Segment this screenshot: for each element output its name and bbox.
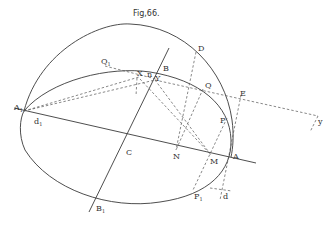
label-n: n xyxy=(147,70,152,79)
line-a1-x xyxy=(24,77,139,111)
label-n-upper: N xyxy=(173,152,180,161)
line-d-tick xyxy=(210,188,232,191)
line-y-yy xyxy=(155,80,318,116)
line-x-down xyxy=(136,78,137,96)
label-a: A xyxy=(232,152,239,161)
label-c: C xyxy=(126,148,132,157)
label-y-lower: y xyxy=(317,117,323,126)
label-d-lower: d xyxy=(223,192,228,201)
label-p1: P1 xyxy=(194,192,203,202)
label-d-upper: D xyxy=(198,44,204,53)
label-a1: A1 xyxy=(13,103,23,113)
geometry-figure: Fig,66. A1 d1 Q1 X n Y B D Q E y P C N M… xyxy=(0,0,334,226)
label-m: M xyxy=(210,157,218,166)
axis-b-b1 xyxy=(89,48,169,212)
line-a1-y xyxy=(24,80,155,111)
label-b: B xyxy=(163,64,169,73)
label-q: Q xyxy=(205,81,212,90)
label-b1: B1 xyxy=(96,204,105,214)
line-y-down xyxy=(310,116,318,132)
label-d1: d1 xyxy=(34,117,42,127)
line-q-n xyxy=(176,89,203,150)
label-x: X xyxy=(137,69,143,78)
label-p: P xyxy=(220,116,226,125)
figure-title: Fig,66. xyxy=(133,9,160,18)
label-q1: Q1 xyxy=(101,57,111,67)
label-y-upper: Y xyxy=(154,74,161,83)
label-e: E xyxy=(240,89,246,98)
line-x-m xyxy=(140,79,211,155)
